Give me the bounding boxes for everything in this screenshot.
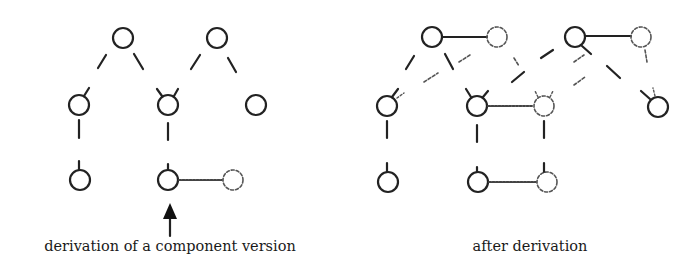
edge-stub	[84, 88, 89, 96]
right-caption: after derivation	[440, 238, 620, 254]
version-node	[378, 172, 398, 192]
derived-version-node	[534, 96, 554, 116]
version-node	[377, 96, 397, 116]
edge-fragment	[445, 54, 453, 69]
edge-fragment-dashed	[514, 58, 519, 66]
edge-stub-dashed	[535, 91, 538, 97]
edge-fragment-dashed	[459, 55, 470, 62]
edge-fragment	[406, 56, 414, 69]
version-node	[69, 95, 89, 115]
edge-fragment	[512, 72, 524, 82]
edge-stub-dashed	[653, 88, 655, 96]
edge-stub	[174, 89, 178, 96]
edge-fragment-dashed	[574, 77, 585, 85]
edge-fragment-dashed	[424, 73, 438, 82]
edge-stub	[466, 89, 471, 97]
edge-fragment	[228, 58, 236, 72]
edge-stub	[392, 89, 398, 97]
version-node	[422, 27, 442, 47]
edge-stub	[483, 91, 488, 97]
left-caption: derivation of a component version	[0, 238, 340, 254]
derived-version-node	[537, 172, 557, 192]
edge-fragment	[134, 54, 143, 69]
edge-stub-dashed	[550, 91, 553, 97]
edge-fragment	[191, 55, 200, 69]
edge-stub-dashed	[397, 93, 404, 98]
version-node	[158, 95, 178, 115]
version-node	[467, 96, 487, 116]
version-node	[565, 27, 585, 47]
derived-version-node	[487, 27, 507, 47]
edge-stub	[582, 46, 591, 54]
edge-stub	[157, 89, 162, 96]
version-node	[207, 28, 227, 48]
derived-version-node	[223, 170, 243, 190]
version-node	[468, 172, 488, 192]
right-panel	[377, 27, 668, 192]
edge-fragment-dashed	[574, 55, 584, 62]
version-node	[70, 170, 90, 190]
version-node	[648, 97, 668, 117]
edge-fragment	[607, 66, 620, 78]
derived-version-node	[631, 27, 651, 47]
edge-fragment-dashed	[645, 50, 647, 62]
left-panel	[69, 28, 266, 236]
version-graph-diagram	[0, 0, 687, 275]
version-node	[246, 95, 266, 115]
version-node	[113, 28, 133, 48]
version-node	[158, 170, 178, 190]
arrow-up-icon	[163, 203, 177, 219]
edge-stub	[641, 91, 650, 99]
edge-fragment	[98, 55, 106, 68]
edge-fragment	[541, 50, 553, 58]
